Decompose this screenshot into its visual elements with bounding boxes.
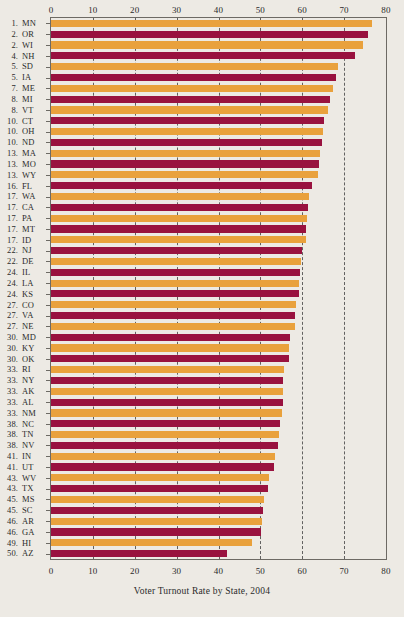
bar-IA (51, 74, 336, 81)
y-label-WA: 17.WA (0, 191, 44, 201)
y-label-NY: 33.NY (0, 375, 44, 385)
bar-AL (51, 399, 283, 406)
y-label-MA: 13.MA (0, 148, 44, 158)
bar-MT (51, 225, 306, 232)
y-tickmark (46, 197, 51, 198)
y-tickmark (46, 251, 51, 252)
rank-value: 46. (1, 527, 18, 537)
rank-value: 17. (1, 213, 18, 223)
rank-value: 16. (1, 181, 18, 191)
bar-row (51, 463, 386, 470)
y-tickmark (46, 132, 51, 133)
state-abbr: MD (18, 332, 44, 342)
bar-row (51, 334, 386, 341)
y-label-NV: 38.NV (0, 440, 44, 450)
rank-value: 8. (1, 105, 18, 115)
y-label-AL: 33.AL (0, 397, 44, 407)
bar-NV (51, 442, 278, 449)
bar-row (51, 193, 386, 200)
y-tickmark (46, 121, 51, 122)
rank-value: 17. (1, 224, 18, 234)
bar-row (51, 160, 386, 167)
state-abbr: CO (18, 300, 44, 310)
y-tickmark (46, 521, 51, 522)
bar-row (51, 290, 386, 297)
tick-bottom-50: 50 (256, 566, 265, 576)
y-tickmark (46, 142, 51, 143)
state-abbr: WI (18, 40, 44, 50)
y-label-HI: 49.HI (0, 538, 44, 548)
rank-value: 33. (1, 375, 18, 385)
rank-value: 33. (1, 408, 18, 418)
state-abbr: OH (18, 126, 44, 136)
state-abbr: CA (18, 202, 44, 212)
bar-row (51, 442, 386, 449)
rank-value: 45. (1, 494, 18, 504)
y-label-WI: 2.WI (0, 40, 44, 50)
bar-row (51, 453, 386, 460)
state-abbr: MT (18, 224, 44, 234)
rank-value: 49. (1, 538, 18, 548)
state-abbr: GA (18, 527, 44, 537)
state-abbr: ND (18, 137, 44, 147)
bar-row (51, 182, 386, 189)
bar-CT (51, 117, 324, 124)
rank-value: 27. (1, 310, 18, 320)
bar-OK (51, 355, 289, 362)
state-abbr: OK (18, 354, 44, 364)
rank-value: 17. (1, 191, 18, 201)
bar-row (51, 301, 386, 308)
rank-value: 43. (1, 473, 18, 483)
bar-SD (51, 63, 338, 70)
y-tickmark (46, 424, 51, 425)
bar-series (51, 18, 386, 559)
y-tickmark (46, 294, 51, 295)
rank-value: 38. (1, 419, 18, 429)
bar-row (51, 150, 386, 157)
y-tickmark (46, 456, 51, 457)
bar-OR (51, 31, 368, 38)
tick-bottom-70: 70 (339, 566, 348, 576)
bar-row (51, 215, 386, 222)
y-tickmark (46, 532, 51, 533)
bar-MD (51, 334, 290, 341)
y-tickmark (46, 229, 51, 230)
state-abbr: SD (18, 61, 44, 71)
y-tickmark (46, 240, 51, 241)
state-abbr: NC (18, 419, 44, 429)
bar-DE (51, 258, 301, 265)
y-label-IL: 24.IL (0, 267, 44, 277)
y-tickmark (46, 489, 51, 490)
bar-row (51, 96, 386, 103)
y-tickmark (46, 413, 51, 414)
bar-TX (51, 485, 268, 492)
rank-value: 33. (1, 397, 18, 407)
y-tickmark (46, 305, 51, 306)
state-abbr: PA (18, 213, 44, 223)
bar-row (51, 117, 386, 124)
y-label-NJ: 22.NJ (0, 245, 44, 255)
state-abbr: ID (18, 235, 44, 245)
tick-top-20: 20 (130, 5, 139, 15)
y-tickmark (46, 402, 51, 403)
y-label-PA: 17.PA (0, 213, 44, 223)
state-abbr: NY (18, 375, 44, 385)
bar-row (51, 323, 386, 330)
rank-value: 30. (1, 332, 18, 342)
bar-row (51, 312, 386, 319)
y-label-UT: 41.UT (0, 462, 44, 472)
bar-row (51, 388, 386, 395)
chart-caption: Voter Turnout Rate by State, 2004 (0, 586, 404, 596)
y-label-OK: 30.OK (0, 354, 44, 364)
state-abbr: HI (18, 538, 44, 548)
y-label-TX: 43.TX (0, 483, 44, 493)
y-label-VT: 8.VT (0, 105, 44, 115)
y-label-MO: 13.MO (0, 159, 44, 169)
y-tickmark (46, 88, 51, 89)
bar-NH (51, 52, 355, 59)
y-tickmark (46, 478, 51, 479)
x-axis-bottom: 01020304050607080 (0, 560, 404, 582)
y-label-WY: 13.WY (0, 170, 44, 180)
y-tickmark (46, 326, 51, 327)
bar-row (51, 377, 386, 384)
